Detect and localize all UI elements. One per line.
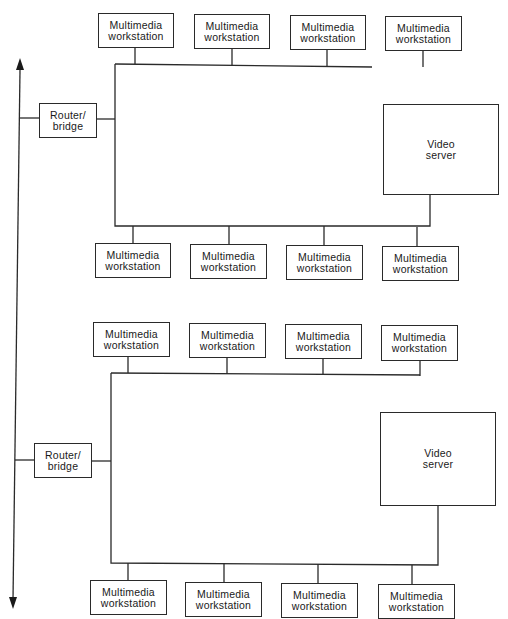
video-server-box: Video server (380, 412, 496, 506)
workstation-box: Multimedia workstation (93, 322, 170, 357)
workstation-box: Multimedia workstation (185, 582, 262, 617)
video-server-box: Video server (383, 104, 499, 195)
workstation-box: Multimedia workstation (382, 246, 459, 281)
workstation-box: Multimedia workstation (194, 14, 270, 49)
router-bridge-box: Router/ bridge (39, 103, 97, 138)
workstation-box: Multimedia workstation (290, 15, 366, 50)
arrow-down-icon (9, 597, 17, 609)
workstation-box: Multimedia workstation (286, 245, 363, 280)
workstation-box: Multimedia workstation (285, 324, 362, 359)
workstation-box: Multimedia workstation (281, 583, 358, 618)
workstation-box: Multimedia workstation (378, 584, 455, 619)
workstation-box: Multimedia workstation (90, 580, 167, 615)
workstation-box: Multimedia workstation (385, 16, 462, 51)
arrow-up-icon (16, 58, 24, 70)
router-bridge-box: Router/ bridge (34, 443, 92, 478)
workstation-box: Multimedia workstation (190, 244, 267, 279)
backbone-line (13, 70, 20, 600)
workstation-box: Multimedia workstation (95, 243, 171, 278)
workstation-box: Multimedia workstation (189, 323, 266, 358)
workstation-box: Multimedia workstation (98, 13, 174, 48)
workstation-box: Multimedia workstation (381, 325, 458, 361)
